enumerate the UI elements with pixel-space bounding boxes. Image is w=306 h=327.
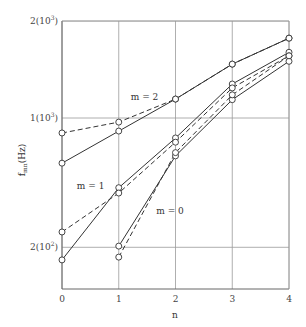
data-point-marker [229,61,235,67]
data-point-marker [286,53,292,59]
data-point-marker [173,150,179,156]
data-point-marker [116,254,122,260]
data-point-marker [59,229,65,235]
y-tick-labels: 2(103)1(103)2(102) [30,14,58,252]
data-point-marker [116,128,122,134]
series-line [119,56,289,257]
y-tick-label: 1(103) [30,111,58,123]
y-axis-label-unit: (Hz) [17,144,27,164]
series-annotation: m = 2 [131,92,159,102]
series-line [119,61,289,246]
x-tick-label: 3 [229,294,235,304]
data-point-marker [286,35,292,41]
data-point-marker [59,160,65,166]
annotations: m = 2m = 1m = 0 [77,92,184,216]
data-point-marker [59,257,65,263]
data-point-marker [229,85,235,91]
data-point-marker [173,96,179,102]
svg-text:fmn(Hz): fmn(Hz) [17,144,28,177]
data-point-marker [59,130,65,136]
x-tick-labels: 01234 [59,294,292,304]
x-tick-label: 1 [116,294,122,304]
chart: 2(103)1(103)2(102) 01234 m = 2m = 1m = 0… [0,0,306,327]
data-point-marker [116,119,122,125]
x-axis-label: n [172,310,178,320]
x-tick-label: 0 [59,294,65,304]
x-tick-label: 4 [286,294,292,304]
data-point-marker [116,243,122,249]
y-axis-label-sub: mn [21,163,28,173]
y-tick-label: 2(102) [30,240,58,252]
x-tick-label: 2 [173,294,179,304]
data-point-marker [116,190,122,196]
series-annotation: m = 1 [77,181,105,191]
y-axis-label: fmn(Hz) [17,144,28,177]
data-point-marker [173,139,179,145]
data-point-marker [229,92,235,98]
series-annotation: m = 0 [156,206,184,216]
y-tick-label: 2(103) [30,14,58,26]
